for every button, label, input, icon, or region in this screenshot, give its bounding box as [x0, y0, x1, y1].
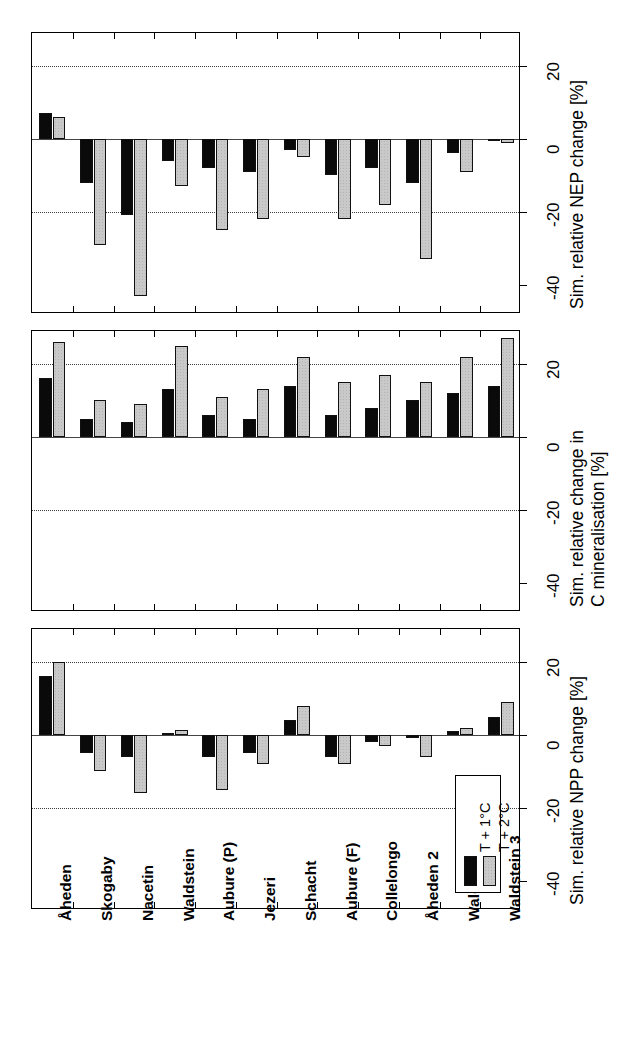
bar-group: [73, 331, 114, 610]
bar-group: [358, 33, 399, 312]
category-label-skogaby: Skogaby: [98, 856, 116, 921]
bar-group: [236, 629, 277, 908]
bar-T2C-Schacht: [297, 139, 310, 157]
bar-T1C-Waldstein: [162, 733, 175, 735]
bar-T1C-AubureP: [202, 415, 215, 437]
bar-group: [195, 33, 236, 312]
bar-T2C-Nacetin: [134, 404, 147, 437]
bar-T2C-Schacht: [297, 706, 310, 735]
plot-area: [32, 331, 519, 610]
bar-T2C-Skogaby: [94, 139, 107, 245]
bar-T1C-Jezeri: [243, 139, 256, 172]
bar-T1C-Nacetin: [121, 139, 134, 216]
bar-group: [440, 331, 481, 610]
bar-T2C-Nacetin: [134, 139, 147, 296]
bar-T1C-Collelongo: [365, 735, 378, 742]
bar-group: [399, 33, 440, 312]
bar-T1C-Schacht: [284, 139, 297, 150]
bar-group: [154, 331, 195, 610]
bar-group: [480, 33, 521, 312]
bar-T2C-Jezeri: [257, 735, 270, 764]
value-axis-label--40: -40: [544, 573, 564, 598]
category-label-collelongo: Collelongo: [383, 841, 401, 921]
bar-group: [32, 331, 73, 610]
legend-swatch-s1: [464, 856, 477, 886]
bar-T1C-heden: [39, 113, 52, 139]
bar-T1C-AubureF: [325, 415, 338, 437]
chart-panel-3: [31, 32, 520, 313]
bar-group: [440, 33, 481, 312]
bar-T2C-AubureP: [216, 397, 229, 437]
bar-group: [236, 33, 277, 312]
bar-group: [358, 331, 399, 610]
axis-title-line: Sim. relative change in: [567, 430, 588, 607]
bar-T2C-Nacetin: [134, 735, 147, 793]
category-label-schacht: Schacht: [302, 861, 320, 921]
bar-T2C-Waldstein: [175, 346, 188, 437]
category-label-jezeri: Jezeri: [261, 877, 279, 921]
bar-T1C-Waldstein2: [447, 731, 460, 735]
bar-T1C-Waldstein2: [447, 393, 460, 437]
bar-T2C-Collelongo: [379, 375, 392, 437]
bar-T2C-heden: [53, 662, 66, 735]
bar-T1C-Collelongo: [365, 139, 378, 168]
bar-T2C-heden2: [420, 139, 433, 259]
bar-T2C-Jezeri: [257, 389, 270, 436]
bar-T1C-Jezeri: [243, 419, 256, 437]
bar-T2C-AubureP: [216, 735, 229, 790]
bar-group: [236, 331, 277, 610]
bar-T2C-heden: [53, 342, 66, 437]
bar-T2C-Jezeri: [257, 139, 270, 219]
bar-T1C-AubureP: [202, 735, 215, 757]
bar-T1C-AubureP: [202, 139, 215, 168]
category-label-heden2: Åheden 2: [424, 851, 442, 921]
bar-T1C-Skogaby: [80, 735, 93, 753]
plot-area: [32, 33, 519, 312]
bar-T2C-Waldstein2: [460, 139, 473, 172]
bar-T2C-Collelongo: [379, 735, 392, 746]
legend: T + 1°CT + 2°C: [455, 775, 501, 893]
bar-T2C-Waldstein3: [501, 702, 514, 735]
bar-T2C-Skogaby: [94, 400, 107, 436]
bar-group: [399, 331, 440, 610]
bar-T1C-Nacetin: [121, 735, 134, 757]
bar-group: [480, 331, 521, 610]
bar-T2C-AubureP: [216, 139, 229, 230]
axis-title-line: Sim. relative NEP change [%]: [567, 80, 588, 309]
value-axis-label-20: 20: [544, 658, 564, 677]
bar-T2C-Waldstein2: [460, 357, 473, 437]
bar-group: [73, 33, 114, 312]
axis-title-panel-2: Sim. relative change inC mineralisation …: [567, 430, 608, 607]
bar-T2C-Waldstein2: [460, 728, 473, 735]
chart-panel-2: [31, 330, 520, 611]
category-label-auburep: Aubure (P): [220, 842, 238, 921]
value-axis-label-0: 0: [544, 144, 564, 153]
category-label-heden: Åheden: [57, 864, 75, 921]
bar-T1C-heden2: [406, 139, 419, 183]
value-axis-label--20: -20: [544, 798, 564, 823]
bar-T1C-heden2: [406, 400, 419, 436]
bar-T2C-AubureF: [338, 382, 351, 437]
bar-T1C-heden2: [406, 735, 419, 739]
value-axis-label-20: 20: [544, 360, 564, 379]
axis-title-line: Sim. relative NPP change [%]: [567, 676, 588, 905]
value-axis-label-20: 20: [544, 62, 564, 81]
bar-T2C-Waldstein: [175, 730, 188, 734]
value-axis-label-0: 0: [544, 442, 564, 451]
bar-T2C-heden2: [420, 382, 433, 437]
bar-T2C-Waldstein3: [501, 338, 514, 437]
bar-T2C-AubureF: [338, 735, 351, 764]
bar-T1C-Waldstein3: [488, 386, 501, 437]
value-axis-label--20: -20: [544, 500, 564, 525]
value-axis-label--40: -40: [544, 275, 564, 300]
category-label-nacetin: Nacetin: [139, 865, 157, 921]
bar-T2C-Collelongo: [379, 139, 392, 205]
bar-T1C-Nacetin: [121, 422, 134, 437]
bar-T1C-AubureF: [325, 139, 338, 175]
bar-T1C-Skogaby: [80, 419, 93, 437]
bar-T1C-heden: [39, 378, 52, 436]
legend-label: T + 2°C: [496, 803, 512, 852]
bar-T2C-heden2: [420, 735, 433, 757]
bar-group: [317, 33, 358, 312]
bar-T2C-Skogaby: [94, 735, 107, 771]
